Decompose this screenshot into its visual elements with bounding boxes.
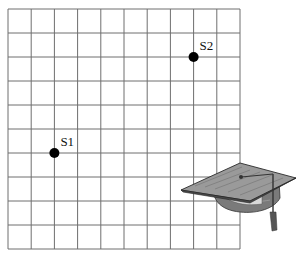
graduation-cap-icon [181,163,296,231]
point-s2: S2 [189,38,214,62]
point-label: S2 [200,38,214,53]
point-s1: S1 [49,134,74,158]
points-layer: S1S2 [49,38,213,158]
point-marker [49,148,59,158]
grid-diagram: S1S2 [0,0,308,256]
point-label: S1 [60,134,74,149]
point-marker [189,52,199,62]
